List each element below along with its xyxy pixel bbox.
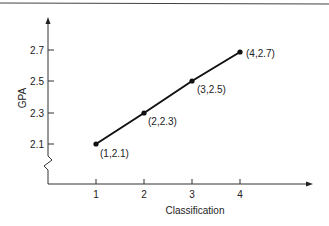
point-label: (4,2.7) [246, 48, 275, 59]
point-annotations: (1,2.1) (2,2.3) (3,2.5) (4,2.7) [100, 48, 275, 159]
y-axis [44, 17, 52, 184]
y-axis-arrow-icon [46, 17, 51, 24]
x-tick-label: 3 [189, 189, 195, 200]
point-label: (2,2.3) [148, 116, 177, 127]
x-tick-label: 4 [237, 189, 243, 200]
y-tick-label: 2.7 [30, 45, 44, 56]
x-tick-label: 2 [141, 189, 147, 200]
y-tick-label: 2.1 [30, 139, 44, 150]
y-ticks: 2.7 2.5 2.3 2.1 [30, 45, 54, 150]
x-ticks: 1 2 3 4 [93, 179, 243, 200]
x-axis-arrow-icon [306, 182, 313, 187]
data-point [237, 49, 242, 54]
gpa-series-line [96, 52, 240, 144]
data-point [93, 141, 98, 146]
x-tick-label: 1 [93, 189, 99, 200]
x-axis-label: Classification [166, 205, 225, 216]
data-point [141, 110, 146, 115]
gpa-chart: 2.7 2.5 2.3 2.1 1 2 3 4 Classification G… [0, 0, 329, 226]
point-label: (1,2.1) [100, 148, 129, 159]
x-axis [48, 182, 313, 187]
y-axis-label: GPA [17, 87, 28, 108]
data-point [189, 78, 194, 83]
y-tick-label: 2.5 [30, 76, 44, 87]
y-tick-label: 2.3 [30, 108, 44, 119]
point-label: (3,2.5) [197, 84, 226, 95]
top-border [0, 3, 329, 4]
